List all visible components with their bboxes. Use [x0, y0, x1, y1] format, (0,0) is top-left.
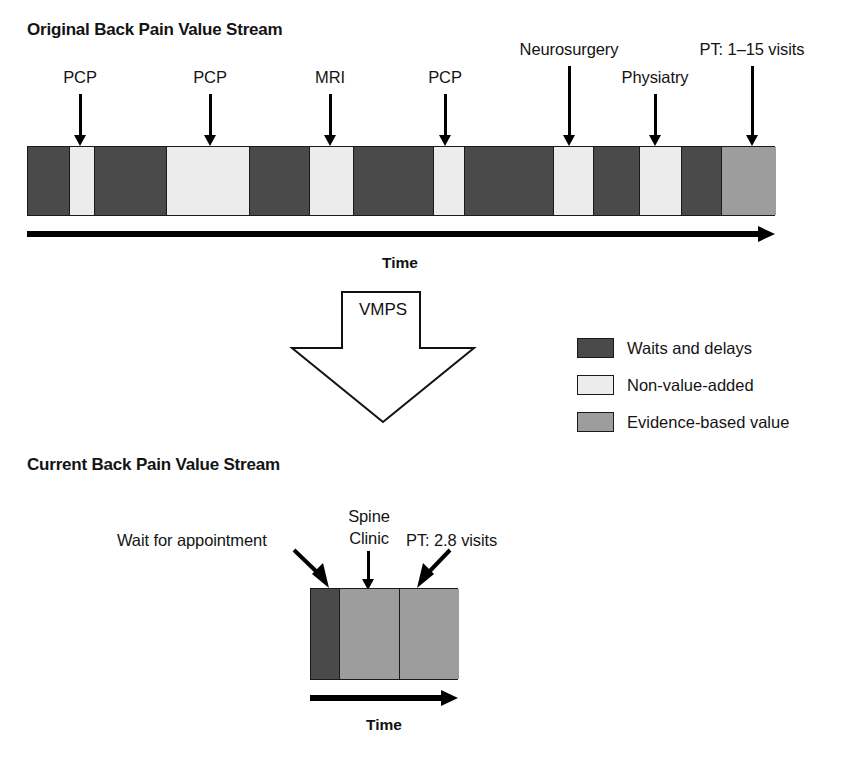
callout-label-physiatry: Physiatry — [594, 68, 716, 87]
current-value-stream-bar — [310, 588, 458, 680]
stream-segment — [69, 147, 94, 215]
stream-segment — [28, 147, 69, 215]
diagram-canvas: Original Back Pain Value Stream PCP PCP … — [0, 0, 844, 757]
stream-segment — [309, 147, 353, 215]
stream-segment — [639, 147, 681, 215]
current-stream-title: Current Back Pain Value Stream — [27, 455, 280, 475]
stream-segment — [433, 147, 464, 215]
current-time-axis-label: Time — [314, 716, 454, 734]
original-time-axis-arrow — [27, 226, 775, 242]
callout-label-wait-for-appointment: Wait for appointment — [117, 531, 267, 550]
stream-segment — [553, 147, 593, 215]
legend-label-non-value-added: Non-value-added — [627, 376, 754, 395]
stream-segment — [339, 589, 399, 679]
callout-label-pcp-3: PCP — [405, 68, 485, 87]
stream-segment — [681, 147, 721, 215]
callout-label-pcp-1: PCP — [40, 68, 120, 87]
legend-swatch-evidence-based-value — [577, 412, 614, 432]
callout-arrow-mri — [322, 94, 339, 146]
stream-segment — [311, 589, 339, 679]
legend-swatch-non-value-added — [577, 375, 614, 395]
callout-arrow-pt-1-15-visits — [744, 66, 761, 146]
stream-segment — [593, 147, 639, 215]
callout-arrow-pcp-2 — [202, 94, 219, 146]
current-time-axis-arrow — [310, 690, 458, 706]
legend-swatch-waits-and-delays — [577, 338, 614, 358]
stream-segment — [166, 147, 249, 215]
callout-label-mri: MRI — [290, 68, 370, 87]
callout-arrow-pcp-3 — [437, 94, 454, 146]
vmps-label: VMPS — [288, 300, 478, 320]
stream-segment — [721, 147, 776, 215]
callout-arrow-physiatry — [647, 94, 664, 146]
legend-label-waits-and-delays: Waits and delays — [627, 339, 752, 358]
callout-arrow-neurosurgery — [561, 66, 578, 146]
callout-arrow-pcp-1 — [72, 94, 89, 146]
callout-label-spine-clinic-line1: Spine — [314, 505, 424, 527]
original-value-stream-bar — [27, 146, 775, 216]
callout-arrow-pt-2-8-visits — [410, 548, 456, 590]
callout-label-pt-1-15-visits: PT: 1–15 visits — [672, 40, 832, 59]
callout-arrow-wait-for-appointment — [292, 548, 338, 590]
stream-segment — [249, 147, 309, 215]
callout-arrow-spine-clinic — [360, 551, 377, 590]
original-stream-title: Original Back Pain Value Stream — [27, 20, 283, 40]
stream-segment — [94, 147, 166, 215]
original-time-axis-label: Time — [330, 254, 470, 272]
callout-label-pcp-2: PCP — [170, 68, 250, 87]
legend-item-non-value-added: Non-value-added — [577, 375, 754, 395]
legend-item-waits-and-delays: Waits and delays — [577, 338, 752, 358]
legend-label-evidence-based-value: Evidence-based value — [627, 413, 789, 432]
stream-segment — [464, 147, 553, 215]
stream-segment — [353, 147, 433, 215]
stream-segment — [399, 589, 459, 679]
callout-label-neurosurgery: Neurosurgery — [495, 40, 643, 59]
legend-item-evidence-based-value: Evidence-based value — [577, 412, 789, 432]
